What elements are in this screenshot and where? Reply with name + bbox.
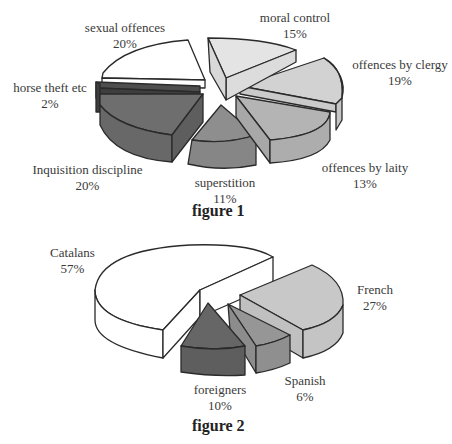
- label-name: superstition: [185, 175, 265, 191]
- label-pct: 57%: [40, 261, 105, 277]
- label-spanish: Spanish 6%: [275, 373, 335, 405]
- label-pct: 15%: [245, 26, 345, 42]
- label-name: foreigners: [180, 382, 260, 398]
- label-name: French: [345, 282, 405, 298]
- label-moral-control: moral control 15%: [245, 10, 345, 42]
- label-name: Inquisition discipline: [30, 162, 145, 178]
- figure-2-chart: Catalans 57% French 27% Spanish 6% forei…: [0, 225, 452, 444]
- figure-1-chart: sexual offences 20% moral control 15% of…: [0, 0, 452, 225]
- label-offences-by-clergy: offences by clergy 19%: [345, 57, 452, 89]
- label-name: offences by laity: [315, 160, 415, 176]
- label-pct: 10%: [180, 398, 260, 414]
- label-pct: 20%: [75, 36, 175, 52]
- label-catalans: Catalans 57%: [40, 245, 105, 277]
- label-pct: 27%: [345, 298, 405, 314]
- label-french: French 27%: [345, 282, 405, 314]
- label-name: horse theft etc: [5, 80, 95, 96]
- figure-1-caption: figure 1: [192, 202, 245, 220]
- label-offences-by-laity: offences by laity 13%: [315, 160, 415, 192]
- label-name: offences by clergy: [345, 57, 452, 73]
- label-pct: 19%: [345, 73, 452, 89]
- label-pct: 20%: [30, 178, 145, 194]
- label-foreigners: foreigners 10%: [180, 382, 260, 414]
- label-name: Spanish: [275, 373, 335, 389]
- label-sexual-offences: sexual offences 20%: [75, 20, 175, 52]
- label-name: sexual offences: [75, 20, 175, 36]
- label-inquisition-discipline: Inquisition discipline 20%: [30, 162, 145, 194]
- slice-inquisition-discipline: [100, 94, 203, 162]
- label-pct: 13%: [315, 176, 415, 192]
- label-pct: 2%: [5, 96, 95, 112]
- label-name: Catalans: [40, 245, 105, 261]
- label-name: moral control: [245, 10, 345, 26]
- label-pct: 6%: [275, 389, 335, 405]
- figure-2-caption: figure 2: [192, 417, 245, 435]
- label-horse-theft: horse theft etc 2%: [5, 80, 95, 112]
